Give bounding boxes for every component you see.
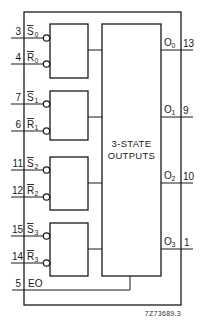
svg-text:13: 13 xyxy=(183,38,195,49)
svg-text:14: 14 xyxy=(12,251,24,262)
svg-text:0: 0 xyxy=(35,31,39,38)
svg-text:2: 2 xyxy=(172,175,176,182)
svg-text:2: 2 xyxy=(35,163,39,170)
latch-2-box xyxy=(50,157,88,210)
output-lines xyxy=(161,50,193,249)
latch-0-box xyxy=(50,24,88,78)
pin-label-r0: 4 R 0 xyxy=(15,52,38,65)
svg-text:15: 15 xyxy=(12,224,24,235)
svg-text:9: 9 xyxy=(183,105,189,116)
inversion-bubble-icon xyxy=(43,128,49,134)
pin-label-eo: 5 EO xyxy=(15,278,42,289)
svg-text:2: 2 xyxy=(35,190,39,197)
pin-label-o0: O 0 13 xyxy=(164,37,195,49)
pin-label-o3: O 3 1 xyxy=(164,236,190,248)
svg-text:R: R xyxy=(27,185,34,196)
svg-text:3: 3 xyxy=(15,26,21,37)
svg-text:1: 1 xyxy=(172,109,176,116)
svg-text:3: 3 xyxy=(35,229,39,236)
pin-label-s0: 3 S 0 xyxy=(15,26,38,39)
latch-3-box xyxy=(50,223,88,276)
inversion-bubble-icon xyxy=(43,61,49,67)
svg-text:7: 7 xyxy=(15,92,21,103)
pin-label-s3: 15 S 3 xyxy=(12,224,39,237)
svg-text:EO: EO xyxy=(28,278,43,289)
svg-text:11: 11 xyxy=(13,158,24,169)
svg-text:5: 5 xyxy=(15,278,21,289)
inversion-bubble-icon xyxy=(43,194,49,200)
svg-text:R: R xyxy=(27,52,34,63)
svg-text:3: 3 xyxy=(172,241,176,248)
svg-text:S: S xyxy=(27,92,34,103)
svg-text:S: S xyxy=(27,26,34,37)
inversion-bubble-icon xyxy=(43,167,49,173)
output-block-label-line2: OUTPUTS xyxy=(108,150,156,161)
pin-label-o1: O 1 9 xyxy=(164,104,189,116)
svg-text:R: R xyxy=(27,119,34,130)
svg-text:12: 12 xyxy=(12,185,24,196)
pin-label-r3: 14 R 3 xyxy=(12,251,39,264)
logic-diagram: 3-STATE OUTPUTS 3 S 0 4 R xyxy=(0,0,205,324)
svg-text:S: S xyxy=(27,224,34,235)
inversion-bubble-icon xyxy=(43,101,49,107)
svg-text:4: 4 xyxy=(15,52,21,63)
figure-code: 7Z73689.3 xyxy=(145,310,181,317)
svg-text:0: 0 xyxy=(172,42,176,49)
pin-label-o2: O 2 10 xyxy=(164,170,195,182)
latch-1-box xyxy=(50,91,88,140)
svg-text:3: 3 xyxy=(35,256,39,263)
pin-label-s2: 11 S 2 xyxy=(13,158,39,171)
pin-label-r1: 6 R 1 xyxy=(15,119,38,132)
svg-text:S: S xyxy=(27,158,34,169)
inversion-bubble-icon xyxy=(43,233,49,239)
pin-label-r2: 12 R 2 xyxy=(12,185,39,198)
svg-text:1: 1 xyxy=(35,97,39,104)
pin-label-s1: 7 S 1 xyxy=(15,92,38,105)
svg-text:6: 6 xyxy=(15,119,21,130)
svg-text:1: 1 xyxy=(184,237,190,248)
inversion-bubble-icon xyxy=(43,260,49,266)
svg-text:1: 1 xyxy=(35,124,39,131)
svg-text:10: 10 xyxy=(183,171,195,182)
svg-text:R: R xyxy=(27,251,34,262)
inversion-bubble-icon xyxy=(43,35,49,41)
output-block-label-line1: 3-STATE xyxy=(112,138,152,149)
svg-text:0: 0 xyxy=(35,57,39,64)
